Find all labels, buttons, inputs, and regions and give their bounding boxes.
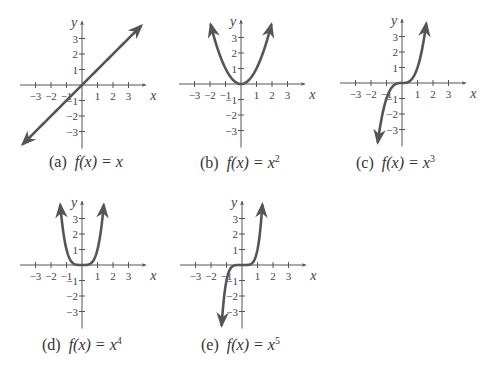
x-tick-label: 2 (110, 270, 116, 282)
y-tick-label: −3 (225, 125, 237, 137)
graph-c: −3−2−1123−3−2−1123xy (340, 13, 477, 147)
y-tick-label: 3 (233, 213, 239, 225)
x-tick-label: −3 (189, 89, 201, 101)
y-tick-label: 3 (232, 32, 238, 44)
y-tick-label: 3 (73, 33, 79, 45)
x-tick-label: −2 (45, 270, 57, 282)
x-tick-label: −2 (365, 88, 377, 100)
y-tick-label: −2 (225, 109, 237, 121)
caption-b: (b) f(x) = x2 (200, 153, 280, 172)
x-axis-label: x (149, 88, 157, 103)
x-tick-label: 1 (415, 88, 421, 100)
y-tick-label: −3 (226, 306, 238, 318)
graph-b: −3−2−1123−3−2−1123xy (179, 14, 316, 148)
y-tick-label: 1 (73, 64, 79, 76)
x-tick-label: 2 (269, 89, 275, 101)
x-axis-label: x (308, 87, 316, 102)
x-tick-label: 3 (286, 270, 292, 282)
y-axis-label: y (69, 15, 78, 30)
caption-d: (d) f(x) = x4 (42, 335, 122, 354)
caption-c: (c) f(x) = x3 (356, 153, 435, 172)
y-axis-label: y (229, 195, 238, 210)
x-tick-label: 2 (430, 88, 436, 100)
x-tick-label: −3 (350, 88, 362, 100)
y-tick-label: 2 (73, 48, 79, 60)
caption-e: (e) f(x) = x5 (201, 335, 280, 354)
y-tick-label: −1 (66, 275, 78, 287)
y-tick-label: 2 (73, 228, 79, 240)
caption-a: (a) f(x) = x (49, 153, 123, 171)
x-tick-label: 1 (95, 270, 101, 282)
x-tick-label: 3 (126, 270, 132, 282)
y-tick-label: 2 (393, 46, 399, 58)
y-tick-label: 2 (233, 228, 239, 240)
y-tick-label: −2 (386, 108, 398, 120)
x-tick-label: 2 (270, 270, 276, 282)
graph-e: −3−2−1123−3−2−1123xy (180, 195, 317, 329)
x-tick-label: −2 (204, 89, 216, 101)
y-tick-label: 1 (233, 244, 239, 256)
x-tick-label: 3 (446, 88, 452, 100)
x-tick-label: 2 (110, 90, 116, 102)
x-tick-label: 1 (254, 89, 260, 101)
x-tick-label: 3 (126, 90, 132, 102)
x-axis-label: x (149, 268, 157, 283)
y-tick-label: 1 (232, 63, 238, 75)
y-axis-label: y (228, 14, 237, 29)
x-axis-label: x (309, 268, 317, 283)
y-tick-label: 2 (232, 47, 238, 59)
y-tick-label: −2 (66, 110, 78, 122)
y-tick-label: −1 (225, 94, 237, 106)
y-tick-label: −3 (386, 124, 398, 136)
x-axis-label: x (469, 86, 477, 101)
y-axis-label: y (69, 195, 78, 210)
graph-d: −3−2−1123−3−2−1123xy (20, 195, 157, 329)
x-tick-label: 1 (255, 270, 261, 282)
function-graphs: −3−2−1123−3−2−1123xy−3−2−1123−3−2−1123xy… (0, 0, 482, 371)
graph-a: −3−2−1123−3−2−1123xy (20, 15, 157, 149)
x-tick-label: −3 (30, 270, 42, 282)
x-tick-label: 3 (285, 89, 291, 101)
y-axis-label: y (389, 13, 398, 28)
x-tick-label: −3 (30, 90, 42, 102)
y-tick-label: −3 (66, 306, 78, 318)
y-tick-label: −3 (66, 126, 78, 138)
y-tick-label: −2 (226, 290, 238, 302)
y-tick-label: 3 (73, 213, 79, 225)
y-tick-label: 1 (393, 62, 399, 74)
x-tick-label: 1 (95, 90, 101, 102)
y-tick-label: 1 (73, 244, 79, 256)
y-tick-label: 3 (393, 31, 399, 43)
x-tick-label: −3 (190, 270, 202, 282)
y-tick-label: −2 (66, 290, 78, 302)
x-tick-label: −2 (205, 270, 217, 282)
x-tick-label: −2 (45, 90, 57, 102)
